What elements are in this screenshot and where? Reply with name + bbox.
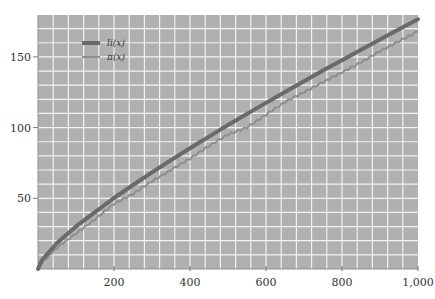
x-tick-label: 400 (180, 276, 201, 289)
x-tick-label: 1,000 (402, 276, 434, 289)
y-tick-label: 150 (10, 51, 31, 64)
chart: 2004006008001,00050100150 li(x) π(x) (0, 0, 435, 299)
legend-label-li: li(x) (107, 38, 125, 48)
x-tick-label: 600 (256, 276, 277, 289)
x-tick-label: 800 (332, 276, 353, 289)
x-tick-label: 200 (104, 276, 125, 289)
y-tick-label: 50 (17, 192, 31, 205)
legend-label-pi: π(x) (106, 52, 126, 62)
y-tick-label: 100 (10, 122, 31, 135)
